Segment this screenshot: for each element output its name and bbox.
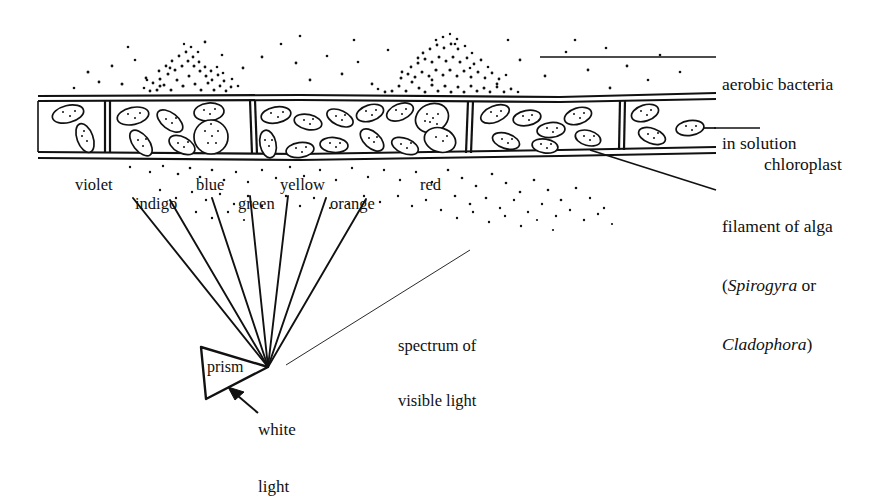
spectrum-label-orange: orange — [330, 195, 375, 213]
caption-line2: visible light — [398, 392, 476, 410]
spectrum-label-green: green — [238, 195, 275, 213]
conjunction-or: or — [797, 275, 816, 295]
spectrum-label-indigo: indigo — [135, 195, 177, 213]
genus-spirogyra: Spirogyra — [728, 275, 797, 295]
label-chloroplast-line1: chloroplast — [764, 155, 842, 175]
genus-cladophora: Cladophora — [722, 334, 807, 354]
label-aerobic-bacteria-line1: aerobic bacteria — [722, 75, 833, 95]
label-filament-line2: (Spirogyra or — [722, 276, 833, 296]
caption-spectrum-of-visible-light: spectrum of visible light — [398, 300, 476, 448]
spectrum-label-violet: violet — [75, 176, 113, 194]
light-rays — [133, 196, 366, 367]
spectrum-label-blue: blue — [196, 176, 224, 194]
label-white-light: white light — [258, 382, 296, 500]
label-filament-line1: filament of alga — [722, 217, 833, 237]
label-white-light-line1: white — [258, 420, 296, 439]
label-filament-line3: Cladophora) — [722, 335, 833, 355]
label-white-light-line2: light — [258, 477, 296, 496]
spectrum-label-red: red — [420, 176, 441, 194]
label-prism: prism — [207, 358, 243, 376]
paren-close: ) — [807, 334, 813, 354]
white-light-arrow — [228, 387, 258, 413]
spectrum-label-yellow: yellow — [280, 176, 325, 194]
label-filament-of-alga: filament of alga (Spirogyra or Cladophor… — [722, 178, 833, 394]
aerobic-bacteria-dots — [73, 33, 682, 94]
chloroplast-group — [50, 98, 704, 160]
caption-line1: spectrum of — [398, 337, 476, 355]
